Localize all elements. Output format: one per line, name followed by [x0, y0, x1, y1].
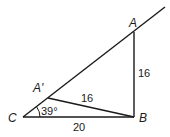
label-C: C	[8, 111, 17, 125]
label-A-prime: A'	[32, 81, 44, 95]
length-AB: 16	[138, 67, 150, 79]
ray-CA	[23, 7, 165, 117]
label-B: B	[139, 111, 147, 125]
angle-C-value: 39°	[41, 105, 58, 117]
length-A-prime-B: 16	[81, 92, 93, 104]
length-CB: 20	[73, 121, 85, 133]
label-A: A	[128, 16, 137, 30]
triangle-diagram: A A' B C 16 16 20 39°	[0, 0, 170, 137]
angle-arc-C	[37, 107, 41, 117]
